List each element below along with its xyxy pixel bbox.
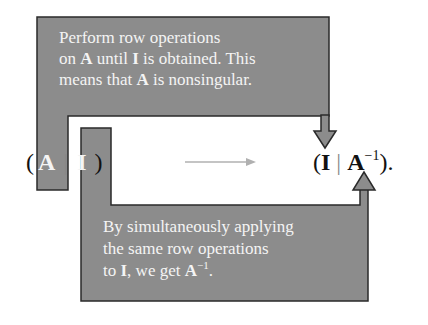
matrix-a-label: A — [38, 149, 55, 175]
down-arrow-icon — [314, 115, 336, 148]
inverse-superscript: −1 — [365, 148, 380, 163]
transition-arrow-icon — [185, 158, 256, 166]
matrix-i-label: I — [77, 149, 86, 175]
right-formula: (I|A−1). — [313, 148, 393, 176]
top-callout-line-1: Perform row operations — [59, 27, 256, 48]
bottom-callout-line-1: By simultaneously applying — [103, 216, 294, 238]
row-reduction-diagram: Perform row operations on A until I is o… — [0, 0, 428, 325]
bottom-callout-line-3: to I, we get A−1. — [103, 260, 294, 282]
top-callout-line-2: on A until I is obtained. This — [59, 48, 256, 69]
result-a-label: A — [347, 149, 364, 175]
bottom-callout-text: By simultaneously applying the same row … — [103, 216, 294, 282]
left-formula: (A|I) — [26, 148, 103, 176]
top-callout-text: Perform row operations on A until I is o… — [59, 27, 256, 90]
result-i-label: I — [321, 149, 330, 175]
bottom-callout-line-2: the same row operations — [103, 238, 294, 260]
top-callout-line-3: means that A is nonsingular. — [59, 69, 256, 90]
